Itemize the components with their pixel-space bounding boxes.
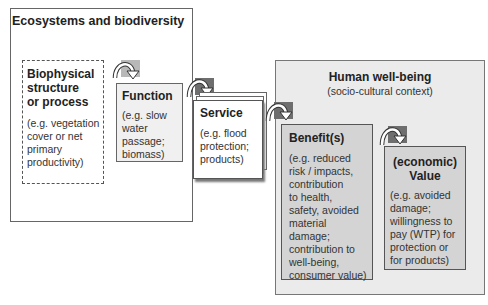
biophysical-title-line: structure — [27, 81, 103, 95]
value-title: (economic) Value — [390, 155, 465, 183]
curved-arrow-icon — [264, 99, 294, 123]
value-title-line: (economic) — [390, 155, 460, 169]
example-line: primary — [27, 143, 103, 156]
example-line: for products) — [390, 254, 465, 267]
ecosystems-title: Ecosystems and biodiversity — [12, 14, 184, 28]
function-box: Function (e.g. slow water passage; bioma… — [116, 83, 183, 162]
biophysical-title-line: Biophysical — [27, 67, 103, 81]
example-line: well-being, — [289, 256, 372, 269]
example-line: safety, avoided — [289, 204, 372, 217]
example-line: (e.g. reduced — [289, 152, 372, 165]
curved-arrow-icon — [111, 58, 141, 82]
function-title: Function — [122, 89, 182, 103]
example-line: willingness to — [390, 215, 465, 228]
biophysical-box: Biophysical structure or process (e.g. v… — [22, 60, 104, 184]
example-line: cover or net — [27, 130, 103, 143]
example-line: productivity) — [27, 156, 103, 169]
service-box: Service (e.g. flood protection; products… — [193, 100, 263, 179]
biophysical-example: (e.g. vegetation cover or net primary pr… — [27, 117, 103, 169]
biophysical-title: Biophysical structure or process — [27, 67, 103, 109]
example-line: products) — [200, 153, 262, 166]
human-wellbeing-subtitle: (socio-cultural context) — [275, 85, 485, 97]
biophysical-title-line: or process — [27, 95, 103, 109]
example-line: protection or — [390, 241, 465, 254]
function-example: (e.g. slow water passage; biomass) — [122, 109, 182, 161]
benefit-example: (e.g. reduced risk / impacts, contributi… — [289, 152, 372, 282]
example-line: (e.g. avoided — [390, 189, 465, 202]
example-line: risk / impacts, — [289, 165, 372, 178]
example-line: (e.g. flood — [200, 127, 262, 140]
value-example: (e.g. avoided damage; willingness to pay… — [390, 189, 465, 267]
value-box: (economic) Value (e.g. avoided damage; w… — [384, 146, 466, 270]
benefit-title: Benefit(s) — [289, 131, 372, 145]
benefit-box: Benefit(s) (e.g. reduced risk / impacts,… — [281, 124, 373, 280]
human-wellbeing-title: Human well-being — [275, 70, 485, 84]
example-line: material — [289, 217, 372, 230]
example-line: biomass) — [122, 148, 182, 161]
example-line: water — [122, 122, 182, 135]
example-line: pay (WTP) for — [390, 228, 465, 241]
example-line: to health, — [289, 191, 372, 204]
example-line: (e.g. slow — [122, 109, 182, 122]
example-line: protection; — [200, 140, 262, 153]
example-line: (e.g. vegetation — [27, 117, 103, 130]
value-title-line: Value — [390, 169, 460, 183]
example-line: passage; — [122, 135, 182, 148]
example-line: damage; — [289, 230, 372, 243]
example-line: contribution — [289, 178, 372, 191]
example-line: contribution to — [289, 243, 372, 256]
curved-arrow-icon — [378, 123, 408, 147]
service-title: Service — [200, 106, 262, 120]
service-example: (e.g. flood protection; products) — [200, 127, 262, 166]
example-line: damage; — [390, 202, 465, 215]
example-line: consumer value) — [289, 269, 372, 282]
